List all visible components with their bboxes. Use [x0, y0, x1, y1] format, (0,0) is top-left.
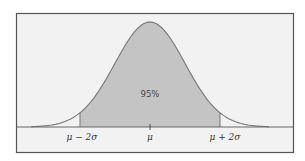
percent-label: 95%: [141, 89, 160, 99]
tick-label-minus-2sigma: μ − 2σ: [67, 132, 99, 142]
tick-label-mu: μ: [147, 132, 153, 142]
chart-svg: 95% μ − 2σ μ μ + 2σ: [0, 0, 305, 161]
tick-label-plus-2sigma: μ + 2σ: [210, 132, 242, 142]
normal-distribution-figure: 95% μ − 2σ μ μ + 2σ: [0, 0, 305, 161]
